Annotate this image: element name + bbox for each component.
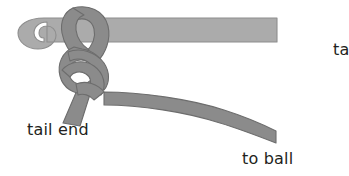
label-tail-end: tail end [27, 122, 89, 138]
label-to-ball: to ball [242, 151, 293, 167]
label-cropped-right-edge: ta [333, 42, 349, 58]
crochet-slip-knot-illustration: tail end to ball ta [0, 0, 349, 176]
knot-diagram-graphic [0, 0, 349, 176]
